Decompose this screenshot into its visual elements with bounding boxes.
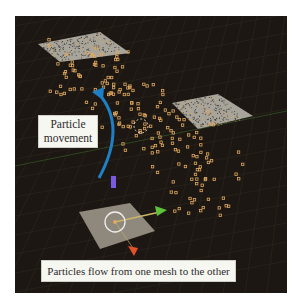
particle bbox=[202, 206, 204, 208]
particle bbox=[57, 63, 59, 65]
mesh-speckle bbox=[183, 114, 184, 115]
mesh-speckle bbox=[89, 54, 90, 55]
mesh-speckle bbox=[62, 56, 63, 57]
mesh-speckle bbox=[88, 42, 89, 43]
mesh-speckle bbox=[107, 44, 108, 45]
particle bbox=[143, 127, 145, 129]
particle bbox=[146, 85, 148, 87]
particle bbox=[151, 166, 153, 168]
grid-line bbox=[15, 16, 19, 293]
particle bbox=[177, 150, 179, 152]
mesh-speckle bbox=[225, 105, 226, 106]
mesh-speckle bbox=[223, 113, 224, 114]
mesh-speckle bbox=[62, 48, 63, 49]
mesh-speckle bbox=[237, 117, 238, 118]
mesh-speckle bbox=[177, 102, 178, 103]
particle bbox=[127, 125, 129, 127]
mesh-speckle bbox=[54, 50, 55, 51]
mesh-speckle bbox=[64, 57, 65, 58]
mesh-speckle bbox=[240, 120, 241, 121]
mesh-speckle bbox=[205, 108, 206, 109]
mesh-speckle bbox=[175, 104, 176, 105]
mesh-speckle bbox=[74, 44, 75, 45]
mesh-speckle bbox=[197, 125, 198, 126]
mesh-speckle bbox=[218, 123, 219, 124]
mesh-speckle bbox=[199, 116, 200, 117]
particle bbox=[114, 66, 116, 68]
mesh-speckle bbox=[236, 116, 237, 117]
mesh-speckle bbox=[102, 49, 103, 50]
mesh-speckle bbox=[97, 33, 98, 34]
mesh-speckle bbox=[110, 44, 111, 45]
emitter-mesh[interactable] bbox=[79, 203, 155, 249]
particle bbox=[135, 135, 137, 137]
mesh-speckle bbox=[96, 44, 97, 45]
mesh-speckle bbox=[234, 114, 235, 115]
grid-line bbox=[113, 16, 201, 293]
mesh-speckle bbox=[235, 116, 236, 117]
mesh-speckle bbox=[46, 50, 47, 51]
mesh-speckle bbox=[90, 45, 91, 46]
particle bbox=[187, 212, 189, 214]
particle bbox=[152, 83, 154, 85]
mesh-speckle bbox=[104, 38, 105, 39]
particle bbox=[59, 85, 61, 87]
mesh-speckle bbox=[203, 105, 204, 106]
mesh-speckle bbox=[189, 105, 190, 106]
mesh-speckle bbox=[207, 124, 208, 125]
mesh-speckle bbox=[177, 107, 178, 108]
mesh-speckle bbox=[202, 124, 203, 125]
particle bbox=[102, 65, 104, 67]
mesh-speckle bbox=[69, 39, 70, 40]
particle bbox=[174, 210, 176, 212]
mesh-speckle bbox=[200, 124, 201, 125]
mesh-speckle bbox=[99, 49, 100, 50]
mesh-speckle bbox=[102, 36, 103, 37]
mesh-speckle bbox=[107, 40, 108, 41]
mesh-speckle bbox=[51, 49, 52, 50]
mesh-speckle bbox=[94, 46, 95, 47]
particle bbox=[196, 155, 198, 157]
mesh-speckle bbox=[72, 46, 73, 47]
mesh-speckle bbox=[60, 62, 61, 63]
mesh-speckle bbox=[98, 47, 99, 48]
mesh-speckle bbox=[75, 48, 76, 49]
particle bbox=[219, 214, 221, 216]
mesh-speckle bbox=[202, 126, 203, 127]
mesh-speckle bbox=[182, 107, 183, 108]
mesh-speckle bbox=[211, 101, 212, 102]
mesh-speckle bbox=[64, 43, 65, 44]
particle bbox=[49, 90, 51, 92]
mesh-speckle bbox=[209, 97, 210, 98]
mesh-speckle bbox=[96, 35, 97, 36]
mesh-speckle bbox=[93, 40, 94, 41]
mesh-speckle bbox=[45, 44, 46, 45]
mesh-speckle bbox=[196, 112, 197, 113]
grid-line bbox=[245, 16, 285, 293]
mesh-speckle bbox=[104, 38, 105, 39]
mesh-speckle bbox=[215, 122, 216, 123]
particle bbox=[191, 178, 193, 180]
mesh-speckle bbox=[217, 120, 218, 121]
particle bbox=[156, 171, 158, 173]
mesh-speckle bbox=[201, 104, 202, 105]
mesh-speckle bbox=[50, 48, 51, 49]
mesh-speckle bbox=[216, 118, 217, 119]
mesh-speckle bbox=[194, 110, 195, 111]
particle bbox=[222, 197, 224, 199]
particle bbox=[154, 144, 156, 146]
mesh-speckle bbox=[200, 102, 201, 103]
mesh-speckle bbox=[219, 95, 220, 96]
3d-viewport[interactable]: Particle movement Particles flow from on… bbox=[15, 16, 287, 293]
particle bbox=[168, 112, 170, 114]
mesh-speckle bbox=[210, 104, 211, 105]
particle bbox=[143, 148, 145, 150]
mesh-speckle bbox=[55, 49, 56, 50]
mesh-speckle bbox=[204, 111, 205, 112]
mesh-speckle bbox=[103, 42, 104, 43]
mesh-speckle bbox=[228, 109, 229, 110]
mesh-speckle bbox=[56, 58, 57, 59]
mesh-speckle bbox=[114, 50, 115, 51]
flow-caption: Particles flow from one mesh to the othe… bbox=[41, 260, 236, 282]
mesh-speckle bbox=[194, 118, 195, 119]
